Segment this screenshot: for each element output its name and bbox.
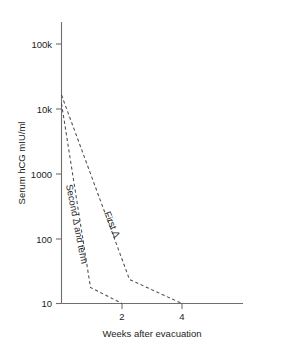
series-line-first-delta — [62, 95, 183, 304]
chart-canvas: 100k 10k 1000 100 10 2 4 Serum hCG mIU/m… — [0, 0, 300, 351]
y-tick-label-100: 100 — [36, 234, 52, 245]
chart-figure: 100k 10k 1000 100 10 2 4 Serum hCG mIU/m… — [0, 0, 300, 351]
x-axis-title: Weeks after evacuation — [102, 328, 201, 339]
series-label-first-delta: First Δ — [102, 210, 123, 240]
y-tick-label-10: 10 — [41, 298, 52, 309]
y-tick-label-100k: 100k — [31, 39, 52, 50]
x-tick-label-2: 2 — [119, 311, 124, 322]
x-tick-label-4: 4 — [179, 311, 184, 322]
y-tick-label-10k: 10k — [37, 104, 53, 115]
y-axis-title: Serum hCG mIU/ml — [16, 122, 27, 205]
y-tick-label-1000: 1000 — [31, 169, 52, 180]
series-label-second-delta-and-term: Second Δ and term — [64, 183, 90, 265]
